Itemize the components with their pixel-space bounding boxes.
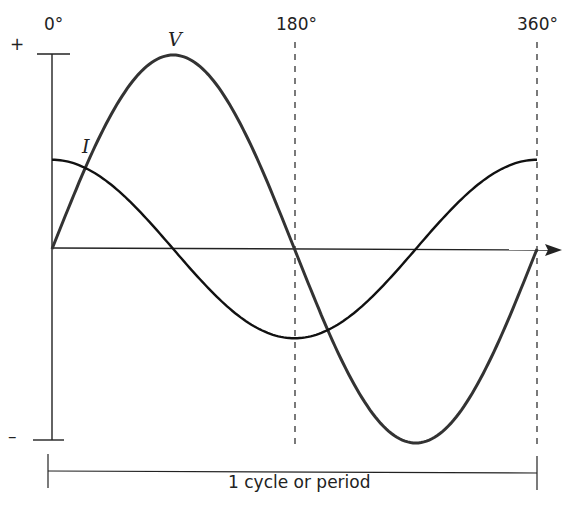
ac-waveform-diagram: + – 0° 180° 360° V I 1 cycle or period bbox=[0, 0, 563, 512]
x-axis bbox=[52, 248, 548, 250]
v-label: V bbox=[168, 30, 182, 49]
i-label: I bbox=[82, 137, 90, 156]
waveform-plot bbox=[0, 0, 563, 512]
plus-label: + bbox=[10, 36, 24, 53]
minus-label: – bbox=[8, 428, 17, 445]
period-label: 1 cycle or period bbox=[228, 474, 371, 491]
deg0-label: 0° bbox=[44, 16, 63, 33]
deg360-label: 360° bbox=[517, 16, 558, 33]
deg180-label: 180° bbox=[276, 16, 317, 33]
